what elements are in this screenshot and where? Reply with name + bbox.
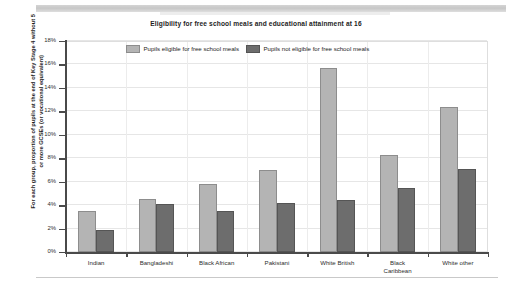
bar-white-british-eligible bbox=[320, 68, 338, 252]
y-tick-label: 18% bbox=[26, 37, 56, 43]
chart-legend: Pupils eligible for free school meals Pu… bbox=[126, 45, 369, 53]
group-separator bbox=[247, 42, 248, 252]
y-tick-label: 14% bbox=[26, 84, 56, 90]
x-category-label-pakistani: Pakistani bbox=[247, 259, 307, 267]
gridline bbox=[66, 63, 487, 64]
x-tick-mark bbox=[247, 252, 248, 257]
y-axis-line bbox=[65, 40, 67, 253]
x-tick-mark bbox=[428, 252, 429, 257]
bar-pakistani-eligible bbox=[259, 170, 277, 252]
x-tick-mark bbox=[126, 252, 127, 257]
gridline bbox=[66, 134, 487, 135]
y-tick-label: 6% bbox=[26, 178, 56, 184]
group-separator bbox=[307, 42, 308, 252]
legend-item-not-eligible: Pupils not eligible for free school meal… bbox=[246, 45, 369, 53]
y-tick-mark bbox=[59, 205, 65, 206]
y-tick-mark bbox=[59, 158, 65, 159]
y-tick-mark bbox=[59, 182, 65, 183]
y-tick-mark bbox=[59, 64, 65, 65]
y-tick-label: 4% bbox=[26, 201, 56, 207]
y-tick-mark bbox=[59, 111, 65, 112]
gridline bbox=[66, 87, 487, 88]
x-tick-mark bbox=[66, 252, 67, 257]
y-tick-label: 16% bbox=[26, 60, 56, 66]
chart-figure: For each group, proportion of pupils at … bbox=[0, 0, 512, 286]
y-tick-label: 10% bbox=[26, 131, 56, 137]
legend-swatch-eligible bbox=[126, 45, 140, 53]
y-tick-label: 12% bbox=[26, 107, 56, 113]
group-separator bbox=[126, 42, 127, 252]
legend-item-eligible: Pupils eligible for free school meals bbox=[126, 45, 239, 53]
y-tick-label: 0% bbox=[26, 248, 56, 254]
gridline bbox=[66, 40, 487, 41]
y-tick-mark bbox=[59, 88, 65, 89]
group-separator bbox=[187, 42, 188, 252]
y-tick-label: 8% bbox=[26, 154, 56, 160]
bar-white-british-not-eligible bbox=[337, 200, 355, 252]
group-separator bbox=[428, 42, 429, 252]
bar-pakistani-not-eligible bbox=[277, 203, 295, 252]
plot-area bbox=[66, 41, 488, 252]
gridline bbox=[66, 157, 487, 158]
legend-label-not-eligible: Pupils not eligible for free school meal… bbox=[264, 45, 370, 52]
y-tick-mark bbox=[59, 135, 65, 136]
bar-black-caribbean-not-eligible bbox=[398, 188, 416, 252]
bar-bangladeshi-not-eligible bbox=[156, 204, 174, 252]
bar-black-african-not-eligible bbox=[217, 211, 235, 252]
x-tick-mark bbox=[488, 252, 489, 257]
gridline bbox=[66, 110, 487, 111]
x-tick-mark bbox=[367, 252, 368, 257]
x-tick-mark bbox=[307, 252, 308, 257]
x-tick-mark bbox=[187, 252, 188, 257]
x-category-label-black-african: Black African bbox=[187, 259, 247, 267]
x-category-label-bangladeshi: Bangladeshi bbox=[126, 259, 186, 267]
bar-indian-eligible bbox=[78, 211, 96, 252]
legend-label-eligible: Pupils eligible for free school meals bbox=[144, 45, 240, 52]
bar-black-caribbean-eligible bbox=[380, 155, 398, 252]
group-separator bbox=[367, 42, 368, 252]
x-axis-line bbox=[65, 252, 488, 254]
footer-divider bbox=[36, 277, 498, 278]
y-tick-mark bbox=[59, 41, 65, 42]
bar-bangladeshi-eligible bbox=[139, 199, 157, 252]
y-tick-mark bbox=[59, 229, 65, 230]
bar-black-african-eligible bbox=[199, 184, 217, 252]
y-tick-label: 2% bbox=[26, 225, 56, 231]
bar-white-other-not-eligible bbox=[458, 169, 476, 252]
x-category-label-black-caribbean: BlackCaribbean bbox=[367, 259, 427, 275]
y-tick-mark bbox=[59, 252, 65, 253]
legend-swatch-not-eligible bbox=[246, 45, 260, 53]
bar-white-other-eligible bbox=[440, 107, 458, 252]
x-category-label-indian: Indian bbox=[66, 259, 126, 267]
x-category-label-white-british: White British bbox=[307, 259, 367, 267]
bar-indian-not-eligible bbox=[96, 230, 114, 252]
x-category-label-white-other: White other bbox=[428, 259, 488, 267]
